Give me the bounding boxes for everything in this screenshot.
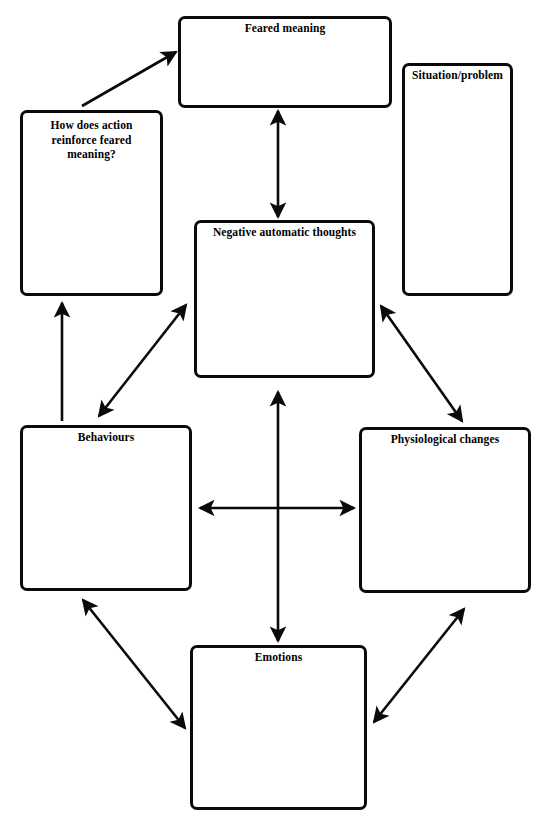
node-how-does-action-reinforce-feared-meaning[interactable]: How does actionreinforce fearedmeaning? bbox=[20, 110, 163, 296]
node-label-situation-problem: Situation/problem bbox=[405, 69, 510, 83]
node-emotions[interactable]: Emotions bbox=[190, 645, 367, 810]
connector-action-to-feared-meaning bbox=[82, 52, 176, 106]
node-label-physiological-changes: Physiological changes bbox=[362, 433, 528, 447]
connector-behaviours-to-emotions bbox=[83, 600, 185, 728]
node-feared-meaning[interactable]: Feared meaning bbox=[178, 16, 392, 108]
node-negative-automatic-thoughts[interactable]: Negative automatic thoughts bbox=[194, 220, 375, 378]
node-label-emotions: Emotions bbox=[193, 651, 364, 665]
node-label-behaviours: Behaviours bbox=[23, 431, 189, 445]
cbt-formulation-diagram: Feared meaning Situation/problem How doe… bbox=[0, 0, 547, 830]
node-behaviours[interactable]: Behaviours bbox=[20, 425, 192, 591]
node-label-negative-automatic-thoughts: Negative automatic thoughts bbox=[197, 226, 372, 240]
node-label-how-does-action-reinforce-feared-meaning: How does actionreinforce fearedmeaning? bbox=[23, 118, 160, 162]
node-physiological-changes[interactable]: Physiological changes bbox=[359, 427, 531, 593]
connector-nat-to-physiological bbox=[381, 306, 462, 421]
connector-emotions-to-physiological bbox=[374, 609, 464, 722]
node-label-feared-meaning: Feared meaning bbox=[181, 22, 389, 36]
connector-behaviours-to-nat bbox=[99, 305, 186, 416]
node-situation-problem[interactable]: Situation/problem bbox=[402, 63, 513, 296]
